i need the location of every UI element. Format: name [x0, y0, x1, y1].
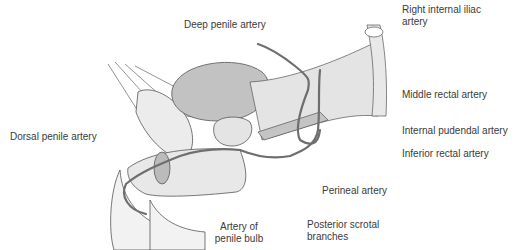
label-inferior-rectal-artery: Inferior rectal artery: [402, 148, 489, 160]
label-dorsal-penile-artery: Dorsal penile artery: [10, 131, 97, 143]
label-internal-pudendal-artery: Internal pudendal artery: [402, 125, 508, 137]
label-middle-rectal-artery: Middle rectal artery: [402, 89, 487, 101]
label-right-internal-iliac-line1: Right internal iliac: [402, 4, 481, 16]
penile-cross-section: [154, 152, 170, 184]
label-deep-penile-artery: Deep penile artery: [184, 19, 266, 31]
label-right-internal-iliac-line2: artery: [402, 16, 428, 28]
prostate: [214, 117, 252, 146]
label-posterior-scrotal-branches-line1: Posterior scrotal: [307, 219, 379, 231]
label-artery-of-penile-bulb-line1: Artery of: [212, 221, 266, 233]
label-artery-of-penile-bulb-line2: penile bulb: [212, 233, 266, 245]
rectum-muscle: [250, 40, 380, 140]
label-posterior-scrotal-branches-line2: branches: [307, 231, 348, 243]
label-perineal-artery: Perineal artery: [322, 185, 387, 197]
